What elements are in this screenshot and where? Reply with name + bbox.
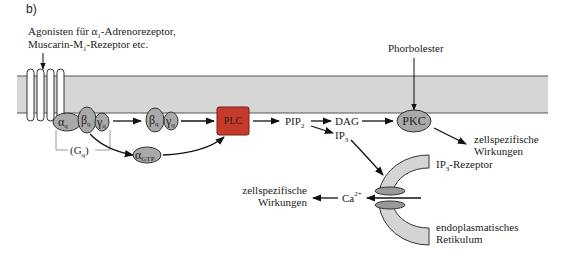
- arrow-alpha-gtp-to-plc: [163, 137, 224, 155]
- gq-bracket: [56, 130, 110, 150]
- ip3-label: IP3: [335, 129, 349, 144]
- gq-signaling-diagram: b) Agonisten für α1-Adrenorezeptor, Musc…: [0, 0, 561, 261]
- ca-effects-line1: zellspezifische: [242, 184, 307, 196]
- ip3-receptor-channel-bottom: [375, 201, 405, 209]
- endoplasmic-reticulum: [375, 155, 429, 245]
- er-label-line2: Retikulum: [436, 233, 483, 245]
- ca-effects-line2: Wirkungen: [258, 196, 308, 208]
- alpha-gtp: αGTP: [133, 147, 161, 163]
- svg-text:Muscarin-M1-Rezeptor etc.: Muscarin-M1-Rezeptor etc.: [28, 38, 148, 53]
- phorbol-ester-label: Phorbolester: [388, 42, 444, 54]
- panel-label: b): [26, 2, 37, 16]
- ip3-receptor-channel-top: [375, 187, 405, 195]
- arrow-pip2-to-ip3: [311, 126, 333, 133]
- pip2-label: PIP2: [285, 115, 305, 130]
- cell-membrane: [17, 76, 548, 113]
- pkc-enzyme: PKC: [397, 110, 431, 132]
- pkc-effects-line1: zellspezifische: [474, 133, 539, 145]
- plc-enzyme: PLC: [217, 107, 249, 135]
- svg-text:PLC: PLC: [224, 115, 243, 126]
- dag-label: DAG: [335, 115, 359, 127]
- ip3-receptor-label: IP3-Rezeptor: [436, 158, 493, 173]
- pkc-effects-line2: Wirkungen: [474, 145, 524, 157]
- arrow-pkc-to-effects: [434, 128, 466, 144]
- svg-text:PKC: PKC: [402, 114, 425, 128]
- arrow-ip3-to-receptor: [351, 140, 383, 175]
- calcium-label: Ca2+: [342, 190, 362, 204]
- gq-label: (Gq): [70, 144, 89, 159]
- er-label-line1: endoplasmatisches: [436, 221, 518, 233]
- agonist-label: Agonisten für α1-Adrenorezeptor, Muscari…: [28, 25, 176, 53]
- arrow-to-alpha-gtp: [90, 134, 133, 155]
